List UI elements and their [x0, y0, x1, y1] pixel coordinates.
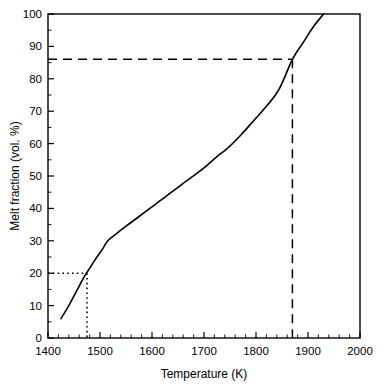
y-tick-label: 20 [29, 267, 42, 279]
chart-background [0, 0, 384, 388]
x-tick-label: 1500 [87, 345, 113, 357]
x-axis-title: Temperature (K) [161, 367, 248, 381]
x-tick-label: 1700 [191, 345, 217, 357]
melt-fraction-vs-temperature-chart: 1400150016001700180019002000 01020304050… [0, 0, 384, 388]
y-tick-label: 70 [29, 105, 42, 117]
y-axis-title: Melt fraction (vol. %) [8, 121, 22, 230]
y-tick-label: 80 [29, 73, 42, 85]
chart-figure: 1400150016001700180019002000 01020304050… [0, 0, 384, 388]
x-tick-label: 1600 [139, 345, 165, 357]
x-tick-label: 1400 [35, 345, 61, 357]
x-tick-label: 1900 [295, 345, 321, 357]
x-tick-label: 1800 [243, 345, 269, 357]
y-tick-label: 40 [29, 202, 42, 214]
y-tick-label: 30 [29, 235, 42, 247]
y-tick-label: 90 [29, 40, 42, 52]
y-tick-label: 10 [29, 300, 42, 312]
y-tick-label: 60 [29, 138, 42, 150]
y-tick-label: 0 [36, 332, 42, 344]
y-tick-label: 50 [29, 170, 42, 182]
y-tick-label: 100 [23, 8, 42, 20]
x-tick-label: 2000 [347, 345, 373, 357]
